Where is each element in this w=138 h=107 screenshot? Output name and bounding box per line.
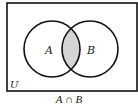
universe-label: U	[10, 79, 19, 90]
set-b-label: B	[86, 44, 95, 57]
diagram-caption: A ∩ B	[0, 93, 138, 105]
venn-diagram: A B U A ∩ B	[0, 0, 138, 107]
set-a-label: A	[44, 44, 53, 57]
